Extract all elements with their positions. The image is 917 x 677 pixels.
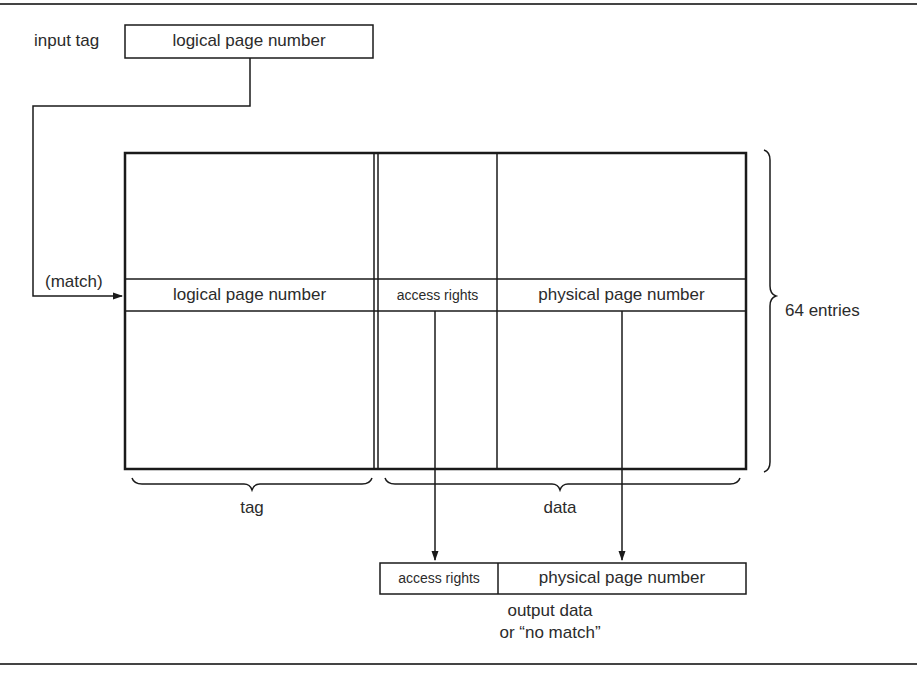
match-label: (match) [45, 272, 103, 292]
output-caption-line2: or “no match” [460, 623, 640, 643]
output-caption-line1: output data [460, 601, 640, 621]
match-connector-arrow [33, 58, 250, 296]
input-tag-label: input tag [34, 31, 99, 51]
entries-count-label: 64 entries [785, 301, 860, 321]
table-physical-page-number: physical page number [497, 285, 746, 305]
entries-brace [764, 150, 776, 472]
table-logical-page-number: logical page number [125, 285, 374, 305]
data-brace [385, 478, 740, 490]
output-access-rights: access rights [380, 570, 498, 586]
table-access-rights: access rights [378, 287, 497, 303]
input-logical-page-number: logical page number [125, 31, 373, 51]
output-physical-page-number: physical page number [498, 568, 746, 588]
data-group-label: data [520, 498, 600, 518]
tag-brace [132, 478, 372, 490]
tag-group-label: tag [212, 498, 292, 518]
